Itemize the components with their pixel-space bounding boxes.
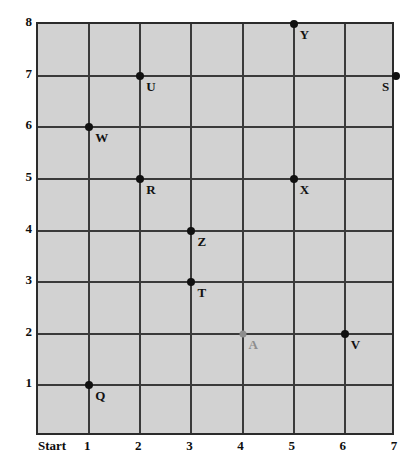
grid-line-vertical [139, 24, 141, 433]
x-axis-tick-label: 2 [118, 439, 158, 452]
y-axis-tick-label: 8 [14, 15, 32, 28]
data-point-label: W [95, 131, 108, 144]
data-point-label: S [382, 80, 389, 93]
plot-area: YSUWRXZTAVQ [36, 22, 394, 435]
grid-line-horizontal [38, 178, 392, 180]
data-point-marker[interactable] [187, 278, 195, 286]
data-point-marker[interactable] [392, 72, 400, 80]
data-point-marker[interactable] [290, 20, 298, 28]
data-point-marker[interactable] [136, 175, 144, 183]
data-point-label: T [197, 286, 206, 299]
grid-line-vertical [293, 24, 295, 433]
y-axis-tick-label: 6 [14, 118, 32, 131]
y-axis-tick-label: 4 [14, 222, 32, 235]
data-point-label: R [146, 183, 155, 196]
data-point-label: U [146, 80, 155, 93]
data-point-label: Q [95, 389, 105, 402]
grid-line-horizontal [38, 333, 392, 335]
data-point-marker[interactable] [187, 227, 195, 235]
data-point-marker[interactable] [85, 123, 93, 131]
x-axis-tick-label: 6 [323, 439, 363, 452]
data-point-marker[interactable] [341, 330, 349, 338]
coordinate-grid-figure: YSUWRXZTAVQ 12345678Start1234567 [0, 0, 416, 474]
grid-line-horizontal [38, 75, 392, 77]
y-axis-tick-label: 1 [14, 376, 32, 389]
data-point-marker[interactable] [136, 72, 144, 80]
x-axis-tick-label: 3 [169, 439, 209, 452]
grid-line-horizontal [38, 230, 392, 232]
data-point-marker[interactable] [85, 381, 93, 389]
y-axis-tick-label: 7 [14, 67, 32, 80]
y-axis-tick-label: 5 [14, 170, 32, 183]
data-point-label: X [300, 183, 309, 196]
data-point-label: Y [300, 28, 309, 41]
grid-line-horizontal [38, 281, 392, 283]
data-point-marker[interactable] [290, 175, 298, 183]
x-axis-tick-label: 5 [272, 439, 312, 452]
x-axis-tick-label: 4 [221, 439, 261, 452]
x-axis-tick-label: Start [38, 439, 66, 452]
grid-line-vertical [242, 24, 244, 433]
x-axis-tick-label: 1 [67, 439, 107, 452]
data-point-label: A [249, 338, 258, 351]
grid-line-vertical [88, 24, 90, 433]
data-point-marker[interactable] [239, 330, 246, 337]
data-point-label: Z [197, 235, 206, 248]
x-axis-tick-label: 7 [374, 439, 414, 452]
grid-line-vertical [344, 24, 346, 433]
y-axis-tick-label: 3 [14, 273, 32, 286]
y-axis-tick-label: 2 [14, 325, 32, 338]
data-point-label: V [351, 338, 360, 351]
